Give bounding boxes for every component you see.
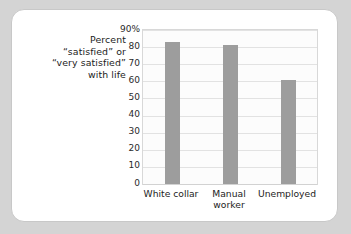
- y-tick-label-60: 60: [106, 76, 140, 85]
- bar-manual-worker: [223, 45, 238, 184]
- y-tick-label-50: 50: [106, 93, 140, 102]
- y-axis-tick-labels: 90%80706050403020100: [104, 29, 140, 185]
- gridline-90: [143, 30, 317, 31]
- y-tick-label-90: 90%: [106, 25, 140, 34]
- y-tick-label-40: 40: [106, 110, 140, 119]
- x-tick-label-line-1: Unemployed: [248, 188, 326, 199]
- bar-unemployed: [281, 80, 296, 184]
- y-tick-label-30: 30: [106, 127, 140, 136]
- y-tick-label-80: 80: [106, 42, 140, 51]
- x-tick-label-line-2: worker: [190, 199, 268, 210]
- y-tick-label-20: 20: [106, 144, 140, 153]
- y-tick-label-70: 70: [106, 59, 140, 68]
- plot-area: [142, 29, 318, 185]
- bar-white-collar: [165, 42, 180, 184]
- figure-card: Percent “satisfied” or “very satisfied” …: [11, 9, 338, 222]
- x-axis-tick-labels: White collarManualworkerUnemployed: [142, 188, 318, 222]
- x-tick-label-unemployed: Unemployed: [248, 188, 326, 199]
- gridline-0: [143, 184, 317, 185]
- y-tick-label-0: 0: [106, 179, 140, 188]
- y-tick-label-10: 10: [106, 161, 140, 170]
